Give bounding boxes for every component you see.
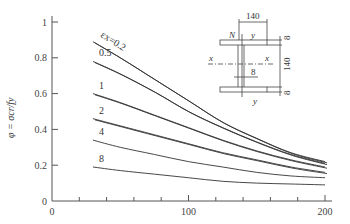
axes: 00.20.40.60.81 0100200 bbox=[35, 16, 333, 217]
web-thickness-label: 8 bbox=[251, 67, 256, 77]
section-label-N: N bbox=[228, 30, 236, 40]
x-tick-label: 0 bbox=[50, 206, 55, 217]
curve-0.5 bbox=[93, 61, 325, 163]
section-label-y-top: y bbox=[250, 30, 255, 40]
x-tick-label: 100 bbox=[181, 206, 196, 217]
curve-4 bbox=[93, 140, 325, 178]
flange-thickness-top-label: 8 bbox=[282, 35, 292, 40]
web-height-label: 140 bbox=[282, 57, 292, 71]
i-section-diagram: 140 8 8 140 8 N y x x y bbox=[208, 11, 292, 106]
curve-1 bbox=[93, 94, 325, 167]
curve-2 bbox=[93, 119, 325, 173]
curve-label: 4 bbox=[99, 126, 104, 137]
y-axis-label: φ = σcr/fy bbox=[5, 97, 16, 138]
y-tick-label: 1 bbox=[42, 17, 47, 28]
y-ticks: 00.20.40.60.81 bbox=[35, 17, 59, 207]
y-tick-label: 0.4 bbox=[35, 124, 48, 135]
section-label-x-left: x bbox=[208, 53, 213, 63]
curve-label: 0.5 bbox=[99, 47, 112, 58]
x-tick-label: 200 bbox=[318, 206, 333, 217]
y-tick-label: 0.8 bbox=[35, 52, 48, 63]
section-label-x-right: x bbox=[264, 53, 269, 63]
chart: 00.20.40.60.81 0100200 φ = σcr/fy εx=0.2… bbox=[0, 0, 350, 224]
y-tick-label: 0.2 bbox=[35, 160, 48, 171]
curve-label: 2 bbox=[99, 105, 104, 116]
y-tick-label: 0 bbox=[42, 196, 47, 207]
curve-label: 8 bbox=[99, 153, 104, 164]
x-ticks: 0100200 bbox=[50, 195, 333, 217]
section-label-y-bottom: y bbox=[252, 96, 257, 106]
y-tick-label: 0.6 bbox=[35, 88, 48, 99]
flange-width-label: 140 bbox=[246, 11, 260, 21]
flange-thickness-bottom-label: 8 bbox=[282, 90, 292, 95]
curve-label: 1 bbox=[99, 80, 104, 91]
